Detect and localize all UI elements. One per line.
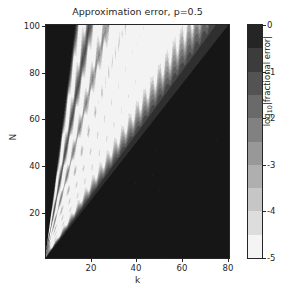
y-tick-label: 40 [10, 161, 40, 171]
colorbar-level [248, 188, 262, 212]
colorbar-gradient [248, 25, 262, 258]
colorbar-tick-mark [263, 258, 266, 259]
chart-title: Approximation error, p=0.5 [46, 6, 229, 18]
x-axis-label: k [46, 275, 229, 285]
y-tick-mark [42, 213, 45, 214]
y-tick-mark [42, 26, 45, 27]
figure-canvas: Approximation error, p=0.5 20406080 2040… [0, 0, 299, 299]
colorbar-tick-label: -4 [267, 206, 275, 216]
colorbar-label: log10|fractional error| [262, 21, 272, 141]
colorbar-level [248, 211, 262, 235]
colorbar-tick-label: -5 [267, 253, 275, 263]
colorbar-tick-mark [263, 165, 266, 166]
colorbar-label-log: log [262, 113, 272, 126]
axes-spine-bottom [45, 258, 230, 259]
colorbar-label-subscript: 10 [266, 105, 274, 113]
x-tick-mark [182, 259, 183, 262]
colorbar-tick-mark [263, 211, 266, 212]
colorbar-level [248, 48, 262, 72]
y-tick-mark [42, 166, 45, 167]
y-tick-label: 20 [10, 208, 40, 218]
colorbar-level [248, 118, 262, 142]
colorbar-spine-left [247, 24, 248, 259]
y-axis-label: N [8, 117, 18, 157]
x-tick-label: 20 [86, 263, 97, 273]
y-tick-mark [42, 73, 45, 74]
x-tick-mark [91, 259, 92, 262]
y-tick-mark [42, 119, 45, 120]
axes-spine-right [229, 24, 230, 259]
colorbar-level [248, 235, 262, 258]
colorbar-spine-top [247, 24, 263, 25]
colorbar-tick-label: -3 [267, 160, 275, 170]
x-tick-label: 60 [177, 263, 188, 273]
heatmap-axes[interactable] [46, 25, 229, 258]
y-tick-label: 80 [10, 68, 40, 78]
colorbar-level [248, 142, 262, 166]
colorbar-level [248, 72, 262, 96]
x-tick-mark [228, 259, 229, 262]
colorbar-level [248, 95, 262, 119]
colorbar-spine-bottom [247, 258, 263, 259]
axes-spine-left [45, 24, 46, 259]
y-tick-label: 100 [10, 21, 40, 31]
colorbar-level [248, 165, 262, 189]
colorbar-level [248, 25, 262, 49]
x-tick-mark [136, 259, 137, 262]
heatmap-image [46, 25, 229, 258]
axes-spine-top [45, 24, 230, 25]
colorbar-label-rest: |fractional error| [262, 36, 272, 105]
x-tick-label: 40 [131, 263, 142, 273]
x-tick-label: 80 [223, 263, 234, 273]
